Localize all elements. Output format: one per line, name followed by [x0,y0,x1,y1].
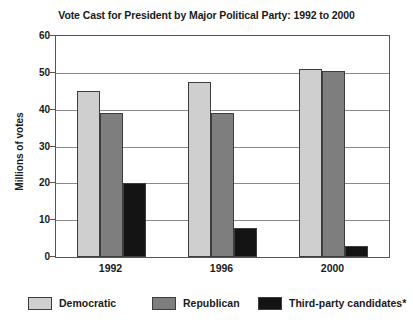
x-axis-tick-label: 1992 [99,262,122,274]
chart-title: Vote Cast for President by Major Politic… [0,9,413,21]
chart-legend: DemocraticRepublicanThird-party candidat… [0,297,413,317]
legend-swatch-third [258,297,282,310]
y-axis-tick-mark [49,146,55,147]
y-axis-tick-mark [49,219,55,220]
y-axis-tick-label: 60 [24,30,50,41]
y-axis-tick-label: 20 [24,177,50,188]
bar-third-2000 [345,246,368,257]
legend-item: Republican [152,297,240,310]
y-axis-tick-label: 10 [24,214,50,225]
bar-third-1992 [123,183,146,257]
bar-republican-2000 [322,71,345,257]
bar-third-1996 [234,228,257,257]
x-axis-tick-label: 1996 [210,262,233,274]
y-axis-tick-mark [49,109,55,110]
y-axis-tick-mark [49,182,55,183]
legend-swatch-republican [152,297,176,310]
x-axis-tick-label: 2000 [321,262,344,274]
legend-item: Third-party candidates* [258,297,406,310]
legend-label: Republican [183,297,240,310]
legend-label: Democratic [59,297,116,310]
y-axis-tick-label: 30 [24,140,50,151]
legend-item: Democratic [28,297,116,310]
y-axis-tick-label: 0 [24,251,50,262]
bar-republican-1996 [211,113,234,257]
y-axis-tick-label: 40 [24,103,50,114]
y-axis-tick-label: 50 [24,66,50,77]
bar-democratic-1996 [188,82,211,257]
bar-democratic-1992 [77,91,100,257]
x-axis-tick-labels: 199219962000 [55,262,390,278]
legend-label: Third-party candidates* [289,297,406,310]
plot-area [55,35,390,258]
chart-figure: Vote Cast for President by Major Politic… [0,0,413,326]
y-axis-tick-mark [49,256,55,257]
y-axis-tick-mark [49,72,55,73]
y-axis-tick-mark [49,35,55,36]
y-axis-tick-labels: 0102030405060 [22,35,50,258]
bar-democratic-2000 [299,69,322,257]
legend-swatch-democratic [28,297,52,310]
bar-republican-1992 [100,113,123,257]
